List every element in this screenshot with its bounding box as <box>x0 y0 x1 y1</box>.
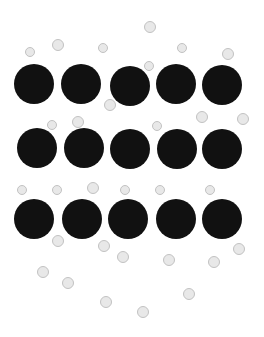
large-particle <box>61 64 101 104</box>
small-particle <box>155 185 165 195</box>
small-particle <box>205 185 215 195</box>
small-particle <box>144 21 156 33</box>
small-particle <box>25 47 35 57</box>
small-particle <box>104 99 116 111</box>
large-particle <box>14 199 54 239</box>
small-particle <box>222 48 234 60</box>
large-particle <box>62 199 102 239</box>
small-particle <box>47 120 57 130</box>
small-particle <box>72 116 84 128</box>
small-particle <box>117 251 129 263</box>
small-particle <box>62 277 74 289</box>
small-particle <box>87 182 99 194</box>
particle-distribution-figure <box>0 0 264 337</box>
small-particle <box>37 266 49 278</box>
large-particle <box>202 129 242 169</box>
large-particle <box>64 128 104 168</box>
small-particle <box>233 243 245 255</box>
small-particle <box>17 185 27 195</box>
small-particle <box>208 256 220 268</box>
large-particle <box>157 129 197 169</box>
small-particle <box>237 113 249 125</box>
large-particle <box>110 66 150 106</box>
small-particle <box>183 288 195 300</box>
small-particle <box>177 43 187 53</box>
small-particle <box>120 185 130 195</box>
large-particle <box>202 199 242 239</box>
small-particle <box>52 235 64 247</box>
small-particle <box>163 254 175 266</box>
large-particle <box>202 65 242 105</box>
small-particle <box>52 39 64 51</box>
small-particle <box>98 43 108 53</box>
large-particle <box>156 64 196 104</box>
small-particle <box>52 185 62 195</box>
large-particle <box>156 199 196 239</box>
small-particle <box>152 121 162 131</box>
small-particle <box>98 240 110 252</box>
small-particle <box>137 306 149 318</box>
large-particle <box>108 199 148 239</box>
small-particle <box>100 296 112 308</box>
small-particle <box>144 61 154 71</box>
large-particle <box>14 64 54 104</box>
large-particle <box>110 129 150 169</box>
large-particle <box>17 128 57 168</box>
small-particle <box>196 111 208 123</box>
